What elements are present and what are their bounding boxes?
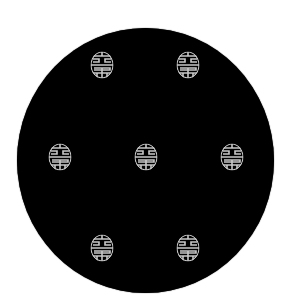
shou-medallion-icon <box>220 143 244 171</box>
shou-medallion-icon <box>176 51 200 79</box>
shou-medallion-icon <box>176 234 200 262</box>
shou-medallion-icon <box>90 51 114 79</box>
shou-medallion-icon <box>134 143 158 171</box>
shou-medallion-icon <box>48 143 72 171</box>
shou-medallion-icon <box>90 234 114 262</box>
